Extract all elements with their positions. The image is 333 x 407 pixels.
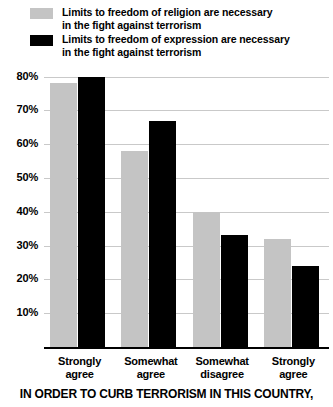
plot-area <box>44 73 329 347</box>
y-tick-label: 30% <box>0 240 38 251</box>
x-category-label: Strongly agree <box>250 355 333 381</box>
chart-bottom-title: IN ORDER TO CURB TERRORISM IN THIS COUNT… <box>0 387 333 401</box>
legend-item-expression: Limits to freedom of expression are nece… <box>30 33 290 58</box>
legend-item-religion: Limits to freedom of religion are necess… <box>30 6 272 31</box>
bar-religion-2 <box>193 212 220 347</box>
y-tick-label: 60% <box>0 138 38 149</box>
y-tick-label: 20% <box>0 273 38 284</box>
y-tick-label: 70% <box>0 104 38 115</box>
y-tick-label: 10% <box>0 307 38 318</box>
legend-label-religion: Limits to freedom of religion are necess… <box>62 6 272 31</box>
bar-religion-3 <box>264 239 291 347</box>
bar-expression-3 <box>292 266 319 347</box>
bar-religion-0 <box>50 83 77 347</box>
legend-label-expression: Limits to freedom of expression are nece… <box>62 33 290 58</box>
x-axis-baseline <box>44 347 329 349</box>
y-tick-label: 50% <box>0 172 38 183</box>
bar-religion-1 <box>121 151 148 347</box>
y-tick-label: 40% <box>0 206 38 217</box>
religion-swatch <box>30 8 53 19</box>
expression-swatch <box>30 35 53 46</box>
chart-legend: Limits to freedom of religion are necess… <box>0 4 333 62</box>
bar-expression-2 <box>221 235 248 347</box>
bar-expression-1 <box>149 121 176 347</box>
y-tick-label: 80% <box>0 71 38 82</box>
bar-expression-0 <box>78 77 105 347</box>
